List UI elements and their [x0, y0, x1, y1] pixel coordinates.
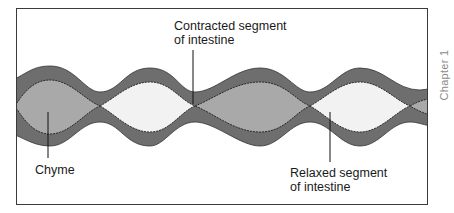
label-contracted-segment: Contracted segment of intestine	[174, 19, 287, 47]
label-chyme-text: Chyme	[35, 163, 75, 177]
chapter-side-tab-text: Chapter 1	[438, 49, 450, 100]
label-contracted-line2: of intestine	[174, 33, 287, 47]
label-contracted-line1: Contracted segment	[174, 19, 287, 33]
chapter-side-tab: Chapter 1	[436, 40, 452, 110]
label-relaxed-line2: of intestine	[290, 180, 387, 194]
label-chyme: Chyme	[35, 163, 75, 177]
label-relaxed-line1: Relaxed segment	[290, 166, 387, 180]
label-relaxed-segment: Relaxed segment of intestine	[290, 166, 387, 194]
